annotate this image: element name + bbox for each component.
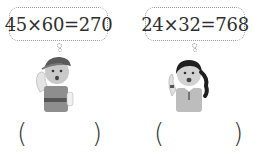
girl-illustration-icon [162, 52, 218, 114]
answer-blank[interactable] [30, 122, 90, 148]
speech-bubble-boy: 45×60=270 [9, 7, 108, 41]
equation-text: 45×60=270 [5, 14, 113, 35]
answer-blank[interactable] [168, 122, 232, 148]
equation-text: 24×32=768 [141, 14, 249, 35]
answer-close-paren: ) [92, 118, 102, 148]
boy-illustration-icon [30, 52, 82, 114]
answer-close-paren: ) [233, 118, 243, 148]
speech-bubble-girl: 24×32=768 [145, 7, 245, 41]
answer-open-paren: ( [17, 118, 27, 148]
answer-open-paren: ( [154, 118, 164, 148]
